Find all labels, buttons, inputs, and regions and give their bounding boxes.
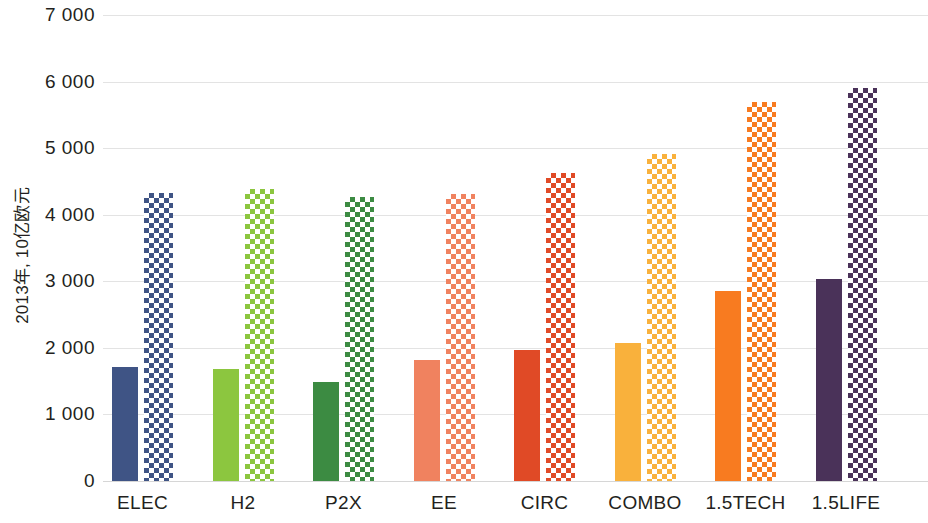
bar-group: [816, 41, 877, 481]
y-axis-tick-label: 6 000: [0, 71, 95, 93]
bar-hatched: [647, 154, 676, 481]
bar-hatched: [345, 197, 374, 481]
bar-solid: [715, 291, 741, 481]
bar-group: [414, 41, 475, 481]
bar-hatched: [446, 194, 475, 481]
bar-group: [514, 41, 575, 481]
y-axis-tick-label: 4 000: [0, 204, 95, 226]
bar-solid: [313, 382, 339, 481]
y-axis-tick-label: 1 000: [0, 403, 95, 425]
bar-solid: [213, 369, 239, 482]
bar-group: [213, 41, 274, 481]
bar-solid: [615, 343, 641, 481]
y-axis-tick-label: 3 000: [0, 270, 95, 292]
x-axis-tick-label: CIRC: [521, 492, 569, 514]
bar-solid: [514, 350, 540, 481]
bar-group: [715, 41, 776, 481]
x-axis-tick-label: 1.5LIFE: [812, 492, 881, 514]
bar-group: [112, 41, 173, 481]
bar-group: [313, 41, 374, 481]
bars: [103, 0, 928, 523]
x-axis-tick-labels: ELECH2P2XEECIRCCOMBO1.5TECH1.5LIFE: [103, 492, 928, 523]
x-axis-tick-label: COMBO: [608, 492, 681, 514]
y-axis-tick-label: 7 000: [0, 4, 95, 26]
x-axis-tick-label: P2X: [325, 492, 362, 514]
y-axis-tick-labels: 01 0002 0003 0004 0005 0006 0007 000: [0, 0, 95, 523]
y-axis-tick-label: 0: [0, 470, 95, 492]
x-axis-tick-label: 1.5TECH: [705, 492, 785, 514]
plot-area: ELECH2P2XEECIRCCOMBO1.5TECH1.5LIFE: [103, 0, 928, 523]
x-axis-tick-label: EE: [431, 492, 457, 514]
bar-hatched: [848, 88, 877, 481]
bar-hatched: [144, 193, 173, 481]
bar-solid: [112, 367, 138, 482]
y-axis-tick-label: 2 000: [0, 337, 95, 359]
bar-hatched: [245, 189, 274, 481]
bar-solid: [816, 279, 842, 481]
bar-solid: [414, 360, 440, 481]
bar-hatched: [747, 102, 776, 481]
y-axis-tick-label: 5 000: [0, 137, 95, 159]
bar-group: [615, 41, 676, 481]
bar-hatched: [546, 173, 575, 481]
x-axis-tick-label: H2: [231, 492, 256, 514]
x-axis-tick-label: ELEC: [117, 492, 168, 514]
bar-chart: 2013年, 10亿欧元 01 0002 0003 0004 0005 0006…: [0, 0, 928, 523]
